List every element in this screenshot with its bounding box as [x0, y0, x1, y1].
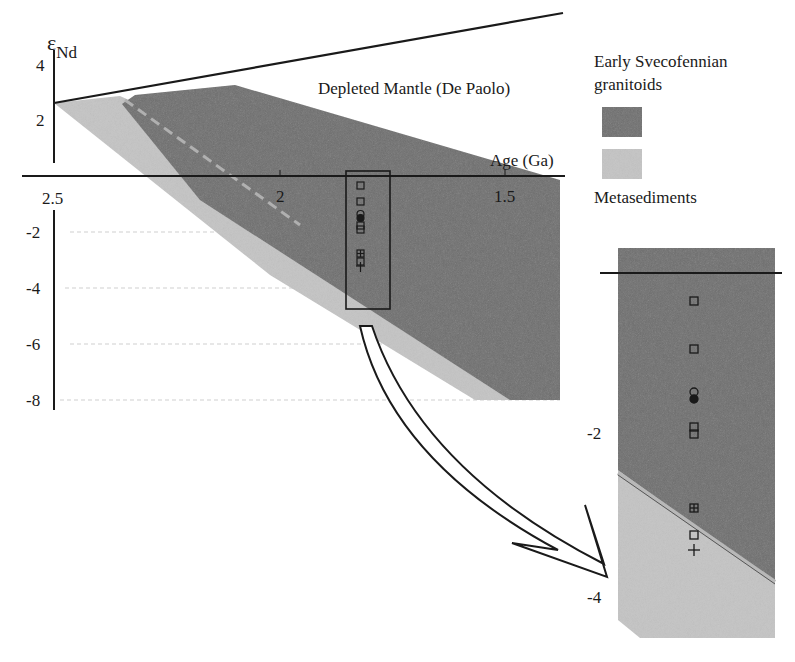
legend-swatch-metasediments [602, 149, 642, 179]
x-tick-2-label: 2 [276, 188, 285, 205]
x-tick-2.5: 2.5 [42, 190, 63, 207]
granitoids-band [122, 85, 560, 400]
y-tick-4: 4 [36, 57, 45, 74]
x-tick-1.5-label: 1.5 [494, 188, 515, 205]
y-tick-m2: -2 [26, 224, 40, 241]
legend-metasediments: Metasediments [594, 189, 697, 206]
legend-swatch-granitoids [602, 107, 642, 137]
y-axis-label: εNd [47, 32, 77, 54]
y-tick-m4: -4 [26, 280, 40, 297]
chart-canvas [0, 0, 795, 662]
x-axis-label: Age (Ga) [490, 152, 554, 169]
legend-title-line1: Early Svecofennian [594, 53, 728, 70]
legend-title-line2: granitoids [594, 76, 662, 93]
y-tick-m8: -8 [26, 392, 40, 409]
depleted-mantle-label: Depleted Mantle (De Paolo) [318, 80, 510, 97]
nd-subscript: Nd [56, 43, 77, 62]
inset-y-tick-m4: -4 [587, 589, 601, 606]
y-tick-m6: -6 [26, 336, 40, 353]
inset-panel [600, 248, 782, 638]
y-tick-2: 2 [36, 112, 45, 129]
epsilon-symbol: ε [47, 30, 56, 55]
inset-y-tick-m2: -2 [587, 425, 601, 442]
